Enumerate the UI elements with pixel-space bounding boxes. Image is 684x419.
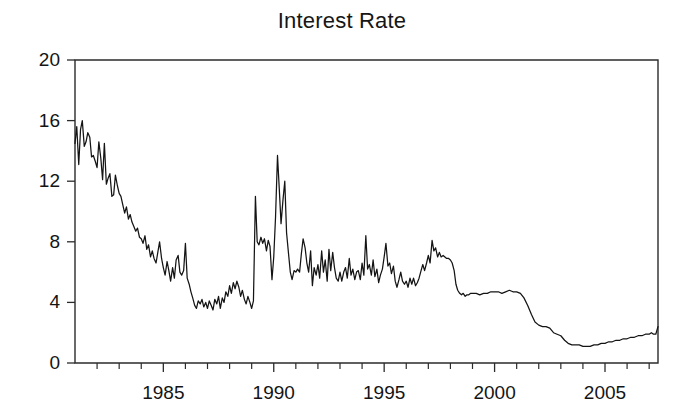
x-tick-label: 1990 [229,383,319,402]
x-tick-label: 2000 [450,383,540,402]
y-axis-ticks [67,60,75,363]
y-tick-label: 12 [10,171,60,190]
y-tick-label: 0 [10,353,60,372]
y-tick-label: 4 [10,292,60,311]
series-line-interest-rate [75,121,658,347]
x-axis-ticks [97,363,649,372]
plot-area [0,0,684,419]
plot-frame [75,60,658,363]
y-tick-label: 16 [10,111,60,130]
x-tick-label: 1995 [339,383,429,402]
chart-figure: Interest Rate 048121620 1985199019952000… [0,0,684,419]
x-tick-label: 1985 [118,383,208,402]
x-tick-label: 2005 [560,383,650,402]
y-tick-label: 8 [10,232,60,251]
y-tick-label: 20 [10,50,60,69]
